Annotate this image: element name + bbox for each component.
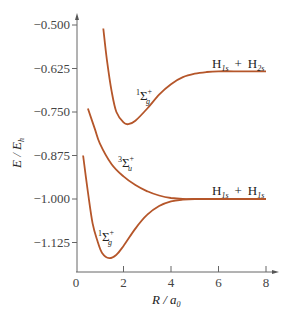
asymptote-label-h1s-h1s: H1s+H1s xyxy=(212,183,264,200)
y-tick-label: −1.125 xyxy=(33,235,70,250)
x-axis-label: R / a0 xyxy=(151,292,181,309)
potential-energy-chart: −0.500−0.625−0.750−0.875−1.000−1.125 024… xyxy=(0,0,292,317)
x-tick-label: 2 xyxy=(120,275,127,290)
x-tick-label: 0 xyxy=(73,275,80,290)
y-tick-label: −0.750 xyxy=(33,104,70,119)
x-axis-arrow-icon xyxy=(272,270,279,274)
y-tick-label: −1.000 xyxy=(33,191,70,206)
state-label-ground-singlet: 1Σ+g xyxy=(98,228,115,247)
x-tick-label: 4 xyxy=(168,275,175,290)
y-tick-label: −0.625 xyxy=(33,61,70,76)
x-tick-label: 8 xyxy=(263,275,270,290)
y-axis-arrow-icon xyxy=(75,13,79,20)
y-axis-ticks: −0.500−0.625−0.750−0.875−1.000−1.125 xyxy=(33,17,77,250)
y-tick-label: −0.500 xyxy=(33,17,70,32)
y-tick-label: −0.875 xyxy=(33,148,70,163)
x-tick-label: 6 xyxy=(215,275,222,290)
asymptote-label-h1s-h2s: H1s+H2s xyxy=(212,56,264,73)
y-axis-label: E / Eh xyxy=(9,138,26,169)
curve-excited-singlet xyxy=(103,29,266,125)
x-axis-ticks: 02468 xyxy=(73,266,270,290)
state-label-upper-singlet: 1Σ+g xyxy=(136,87,153,106)
state-label-triplet: 3Σ+u xyxy=(118,154,135,173)
